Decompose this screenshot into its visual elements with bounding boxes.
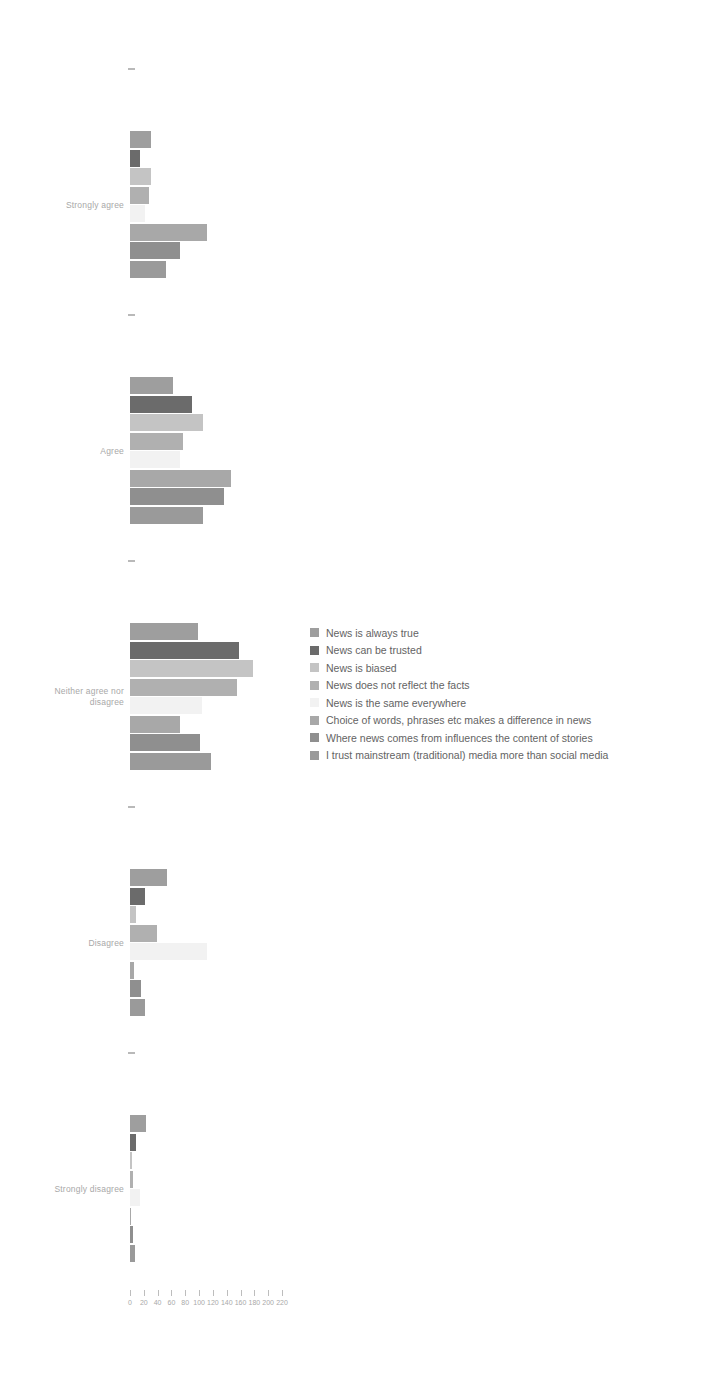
legend-item-label: News is the same everywhere [326,697,466,709]
x-axis-tick-label: 120 [207,1299,219,1306]
y-axis-label: Strongly agree [6,200,124,211]
group-tick-mark [128,68,135,70]
x-axis-tick [158,1290,159,1296]
legend-item-label: Where news comes from influences the con… [326,732,593,744]
legend-item[interactable]: News does not reflect the facts [310,677,710,695]
x-axis-tick [185,1290,186,1296]
bar [130,623,198,640]
bar [130,470,231,487]
bar [130,1115,146,1132]
x-axis-tick [268,1290,269,1296]
y-axis-label: Agree [6,446,124,457]
x-axis-tick [254,1290,255,1296]
bar [130,451,180,468]
bar [130,1134,136,1151]
bar [130,697,202,714]
x-axis-tick-label: 20 [140,1299,148,1306]
bar [130,168,151,185]
bar-group [130,623,282,771]
x-axis-tick [144,1290,145,1296]
bar-group [130,1115,282,1263]
legend-swatch-icon [310,733,319,742]
y-axis-label: Disagree [6,938,124,949]
x-axis-tick [227,1290,228,1296]
x-axis-tick-label: 200 [262,1299,274,1306]
bar [130,396,192,413]
bar [130,414,203,431]
bar [130,660,253,677]
x-axis: 020406080100120140160180200220 [130,1290,282,1320]
x-axis-tick-label: 140 [221,1299,233,1306]
bar [130,433,183,450]
bar [130,734,200,751]
bar-group [130,869,282,1017]
x-axis-tick-label: 180 [249,1299,261,1306]
bar [130,925,157,942]
legend-item-label: News is always true [326,627,419,639]
legend-item-label: I trust mainstream (traditional) media m… [326,749,608,761]
grouped-bar-chart: Strongly agreeAgreeNeither agree nor dis… [0,0,716,1381]
legend-swatch-icon [310,681,319,690]
legend-item[interactable]: Where news comes from influences the con… [310,729,710,747]
legend-item[interactable]: News can be trusted [310,642,710,660]
bar [130,642,239,659]
bar [130,242,180,259]
legend-swatch-icon [310,663,319,672]
x-axis-tick [241,1290,242,1296]
bar [130,131,151,148]
bar [130,507,203,524]
plot-area [130,60,282,1290]
bar [130,488,224,505]
bar [130,943,207,960]
x-axis-tick [130,1290,131,1296]
x-axis-tick-label: 0 [128,1299,132,1306]
y-axis-labels: Strongly agreeAgreeNeither agree nor dis… [0,60,124,1290]
bar [130,1226,133,1243]
group-tick-mark [128,560,135,562]
bar [130,888,145,905]
legend-swatch-icon [310,646,319,655]
bar [130,962,134,979]
bar [130,205,145,222]
bar [130,1171,133,1188]
bar [130,1152,132,1169]
x-axis-tick-label: 100 [193,1299,205,1306]
legend-item-label: News can be trusted [326,644,422,656]
bar [130,679,237,696]
bar [130,753,211,770]
bar [130,377,173,394]
legend-item[interactable]: Choice of words, phrases etc makes a dif… [310,712,710,730]
x-axis-tick-label: 220 [276,1299,288,1306]
bar [130,150,140,167]
bar [130,1245,135,1262]
bar [130,1189,140,1206]
bar-group [130,377,282,525]
x-axis-tick [199,1290,200,1296]
legend-swatch-icon [310,628,319,637]
legend-item-label: News is biased [326,662,397,674]
x-axis-tick [171,1290,172,1296]
y-axis-label: Neither agree nor disagree [6,686,124,708]
legend-item[interactable]: I trust mainstream (traditional) media m… [310,747,710,765]
x-axis-tick-label: 40 [154,1299,162,1306]
bar [130,1208,131,1225]
group-tick-mark [128,314,135,316]
x-axis-tick-label: 60 [168,1299,176,1306]
group-tick-mark [128,1052,135,1054]
y-axis-label: Strongly disagree [6,1184,124,1195]
bar-group [130,131,282,279]
bar [130,869,167,886]
x-axis-tick [213,1290,214,1296]
x-axis-tick-label: 80 [181,1299,189,1306]
bar [130,980,141,997]
bar [130,999,145,1016]
bar [130,716,180,733]
chart-legend: News is always trueNews can be trustedNe… [310,624,710,764]
x-axis-tick-label: 160 [235,1299,247,1306]
bar [130,187,149,204]
legend-item-label: Choice of words, phrases etc makes a dif… [326,714,591,726]
legend-item[interactable]: News is the same everywhere [310,694,710,712]
legend-item[interactable]: News is always true [310,624,710,642]
group-tick-mark [128,806,135,808]
legend-item[interactable]: News is biased [310,659,710,677]
